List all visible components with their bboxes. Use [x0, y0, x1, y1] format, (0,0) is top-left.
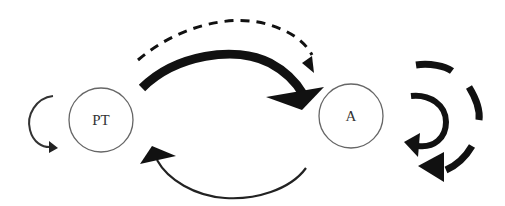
edge-pt-self-loop [29, 96, 58, 153]
arrowhead-icon [404, 133, 420, 157]
node-pt: PT [69, 88, 133, 152]
arrowhead-icon [418, 152, 444, 182]
edge-a-to-pt-thin [140, 146, 306, 198]
node-a: A [319, 84, 383, 148]
arrowhead-icon [49, 141, 58, 153]
edge-pt-to-a-thick [142, 54, 324, 110]
diagram-canvas: PT A [0, 0, 505, 206]
node-pt-label: PT [92, 112, 110, 128]
edge-a-self-loop-inner [404, 96, 446, 157]
arrowhead-icon [266, 87, 324, 110]
arrowhead-icon [302, 56, 314, 73]
node-a-label: A [346, 108, 357, 124]
edge-pt-to-a-dashed [138, 20, 314, 73]
